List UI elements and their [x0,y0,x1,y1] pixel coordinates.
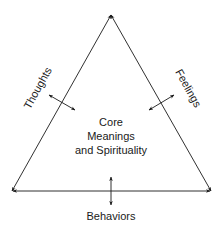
triangle-diagram: Thoughts Feelings Behaviors Core Meaning… [0,0,222,229]
thoughts-connector-arrow [49,95,75,110]
feelings-label: Feelings [173,67,204,110]
behaviors-label: Behaviors [87,210,136,222]
center-text-line-2: Meanings [87,130,135,142]
center-text-line-1: Core [99,116,123,128]
center-text-line-3: and Spirituality [75,144,148,156]
feelings-connector-arrow [149,95,174,110]
thoughts-label: Thoughts [21,65,54,111]
